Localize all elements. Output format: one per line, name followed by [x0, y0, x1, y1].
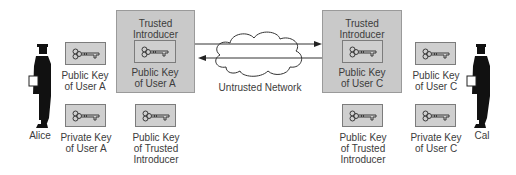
- key-icon: [71, 109, 101, 123]
- person-silhouette-icon: [465, 44, 499, 130]
- right-public-key-trusted-introducer: [342, 104, 383, 127]
- key-icon: [348, 45, 378, 59]
- right-introducer-key: [342, 40, 383, 63]
- person-silhouette-icon: [24, 44, 58, 130]
- left-introducer-title: Trusted Introducer: [117, 18, 194, 40]
- right-public-key-trusted-introducer-label: Public Key of Trusted Introducer: [332, 132, 394, 165]
- private-key-user-c-label: Private Key of User C: [405, 132, 467, 154]
- key-icon: [140, 45, 170, 59]
- alice-label: Alice: [20, 130, 60, 141]
- private-key-user-a-label: Private Key of User A: [55, 132, 117, 154]
- left-introducer-key: [134, 40, 176, 63]
- private-key-user-c: [415, 104, 456, 127]
- public-key-user-c-label: Public Key of User C: [405, 70, 467, 92]
- key-icon: [141, 109, 171, 123]
- cal-figure: [465, 44, 499, 130]
- network-diagram: [190, 25, 330, 80]
- left-introducer-key-label: Public Key of User A: [120, 67, 190, 89]
- cloud-icon: [216, 32, 302, 76]
- left-public-key-trusted-introducer: [135, 104, 176, 127]
- key-icon: [348, 109, 378, 123]
- right-introducer-key-label: Public Key of User C: [327, 67, 397, 89]
- key-icon: [71, 47, 101, 61]
- cal-label: Cal: [462, 130, 502, 141]
- key-icon: [421, 109, 451, 123]
- private-key-user-a: [65, 104, 106, 127]
- right-introducer-title: Trusted Introducer: [323, 18, 401, 40]
- public-key-user-c: [415, 42, 456, 65]
- key-icon: [421, 47, 451, 61]
- untrusted-network-label: Untrusted Network: [210, 82, 310, 93]
- public-key-user-a: [65, 42, 106, 65]
- left-public-key-trusted-introducer-label: Public Key of Trusted Introducer: [125, 132, 187, 165]
- public-key-user-a-label: Public Key of User A: [55, 70, 115, 92]
- alice-figure: [24, 44, 58, 130]
